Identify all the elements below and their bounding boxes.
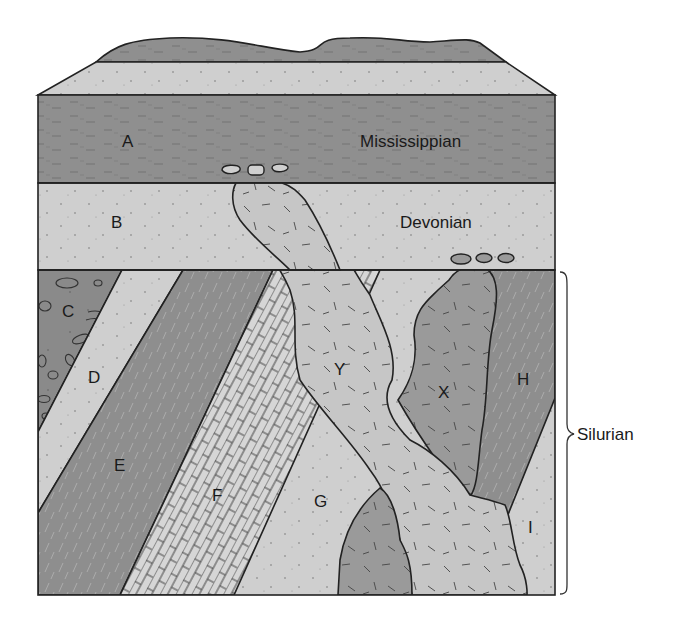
- period-devonian: Devonian: [400, 213, 472, 232]
- label-y: Y: [334, 360, 345, 379]
- label-a: A: [122, 132, 134, 151]
- label-e: E: [114, 456, 125, 475]
- label-f: F: [212, 486, 222, 505]
- silurian-brace: [560, 272, 574, 594]
- label-c: C: [62, 302, 74, 321]
- pebbles-unconformity-b: [451, 254, 514, 265]
- top-sandstone-band: [38, 62, 555, 95]
- label-g: G: [314, 492, 327, 511]
- label-h: H: [517, 370, 529, 389]
- label-d: D: [88, 368, 100, 387]
- label-x: X: [438, 383, 449, 402]
- period-silurian: Silurian: [577, 425, 634, 444]
- layer-a-mississippian: [38, 95, 555, 183]
- top-hill-shale: [96, 38, 506, 62]
- label-b: B: [111, 213, 122, 232]
- geologic-cross-section: A Mississippian B Devonian C D E F G Y X…: [0, 0, 682, 623]
- label-i: I: [528, 518, 533, 537]
- period-mississippian: Mississippian: [360, 132, 461, 151]
